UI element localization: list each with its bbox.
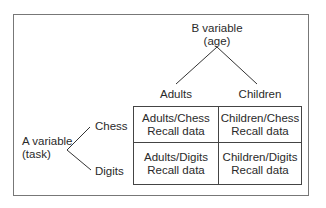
a-variable-subtitle: (task) (22, 148, 51, 161)
cell-subtitle: Recall data (231, 125, 289, 137)
a-branch-digits-line (67, 150, 91, 170)
cell-title: Children/Chess (221, 112, 300, 124)
b-branch-adults-line (176, 47, 217, 84)
cell-children-chess: Children/ChessRecall data (219, 107, 301, 143)
b-level-children: Children (239, 88, 282, 101)
cell-subtitle: Recall data (231, 164, 289, 176)
design-table: Adults/ChessRecall data Children/ChessRe… (133, 106, 302, 185)
b-variable-subtitle: (age) (204, 35, 231, 48)
cell-subtitle: Recall data (147, 125, 205, 137)
a-level-digits: Digits (95, 165, 124, 178)
a-variable-title: A variable (22, 135, 73, 148)
cell-title: Adults/Chess (142, 112, 210, 124)
cell-subtitle: Recall data (147, 164, 205, 176)
cell-title: Children/Digits (223, 151, 298, 163)
cell-children-digits: Children/DigitsRecall data (219, 143, 301, 184)
a-level-chess: Chess (95, 120, 128, 133)
b-level-adults: Adults (160, 88, 192, 101)
cell-adults-digits: Adults/DigitsRecall data (134, 143, 219, 184)
b-variable-title: B variable (191, 22, 242, 35)
cell-title: Adults/Digits (144, 151, 208, 163)
cell-adults-chess: Adults/ChessRecall data (134, 107, 219, 143)
b-branch-children-line (217, 47, 257, 84)
